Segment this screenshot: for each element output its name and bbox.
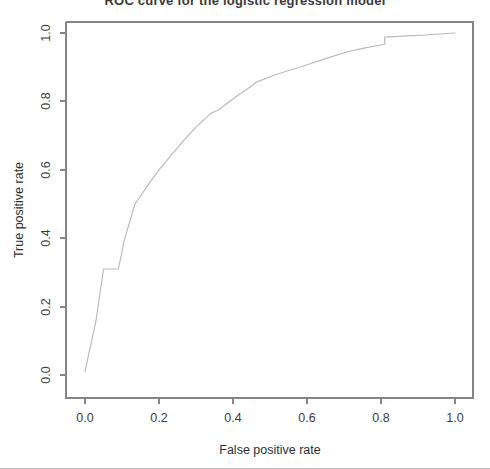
y-tick-label-1: 0.2 [39,298,53,315]
x-tick-label-1: 0.2 [150,411,167,425]
x-tick-label-4: 0.8 [372,411,389,425]
x-tick-label-3: 0.6 [298,411,315,425]
plot-box-border [66,22,473,398]
x-axis-ticks [85,398,455,404]
y-tick-label-0: 0.0 [39,366,53,383]
x-tick-label-5: 1.0 [446,411,463,425]
y-tick-label-3: 0.6 [39,161,53,178]
y-axis-ticks [60,33,66,375]
roc-curve-line [85,33,455,372]
x-axis-title: False positive rate [219,443,320,457]
x-axis-tick-labels: 0.0 0.2 0.4 0.6 0.8 1.0 [76,411,463,425]
y-tick-label-4: 0.8 [39,92,53,109]
y-tick-label-2: 0.4 [39,229,53,246]
y-tick-label-5: 1.0 [39,24,53,41]
roc-chart-figure: ROC curve for the logistic regression mo… [0,0,490,469]
roc-plot-area: 1.0 0.8 0.6 0.4 0.2 0.0 True positive ra… [0,0,490,469]
x-tick-label-2: 0.4 [224,411,241,425]
y-axis-title: True positive rate [12,162,26,258]
y-axis-tick-labels: 1.0 0.8 0.6 0.4 0.2 0.0 [39,24,53,383]
x-tick-label-0: 0.0 [76,411,93,425]
